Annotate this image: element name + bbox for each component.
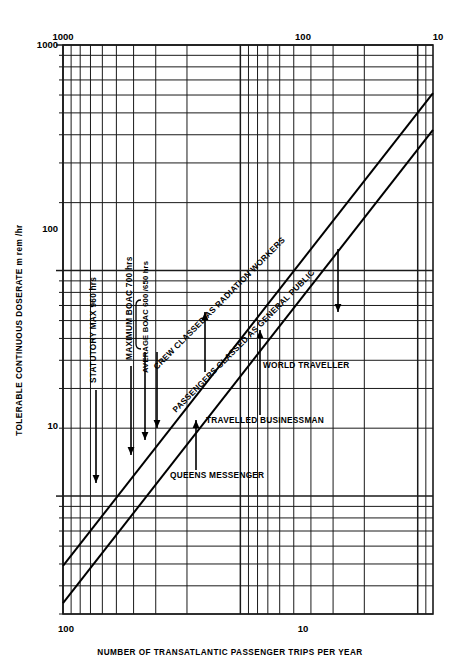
annotation-maximum-boac: MAXIMUM BOAC 700 hrs bbox=[124, 256, 134, 360]
annotation-world-traveller: WORLD TRAVELLER bbox=[263, 360, 350, 370]
log-log-chart: 1000 100 10 100 10 1000 100 10 NUMBER OF… bbox=[0, 0, 460, 672]
canvas-background bbox=[0, 0, 460, 672]
left-tick-100: 100 bbox=[42, 223, 58, 234]
x-axis-label: NUMBER OF TRANSATLANTIC PASSENGER TRIPS … bbox=[97, 648, 362, 657]
annotation-average-boac: AVERAGE BOAC 600 /650 hrs bbox=[141, 261, 150, 373]
annotation-queens-messenger: QUEENS MESSENGER bbox=[170, 470, 264, 480]
bottom-tick-10: 10 bbox=[298, 623, 309, 634]
bottom-tick-100: 100 bbox=[58, 623, 74, 634]
annotation-travelled-businessman: TRAVELLED BUSINESSMAN bbox=[206, 415, 324, 425]
y-axis-label: TOLERABLE CONTINUOUS DOSERATE m rem /hr bbox=[15, 224, 24, 436]
top-tick-100: 100 bbox=[295, 31, 311, 42]
left-tick-10: 10 bbox=[47, 420, 58, 431]
top-tick-10: 10 bbox=[433, 31, 444, 42]
left-tick-1000: 1000 bbox=[37, 39, 58, 50]
chart-page: 1000 100 10 100 10 1000 100 10 NUMBER OF… bbox=[0, 0, 460, 672]
annotation-statutory-max: STATUTORY MAX 960 hrs bbox=[88, 277, 98, 383]
